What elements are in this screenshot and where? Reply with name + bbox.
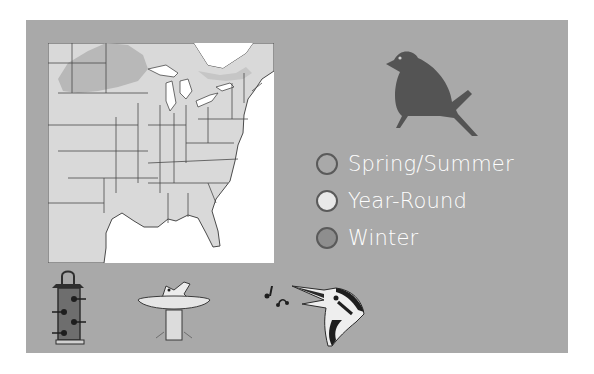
us-map-icon	[48, 43, 274, 263]
legend-label: Year-Round	[348, 189, 467, 213]
year-round-swatch-icon	[316, 190, 338, 212]
perched-bird-icon	[378, 36, 488, 136]
music-notes-icon	[265, 286, 290, 307]
spring-summer-swatch-icon	[316, 153, 338, 175]
legend-item-year-round: Year-Round	[316, 182, 514, 219]
legend-item-spring-summer: Spring/Summer	[316, 145, 514, 182]
bird-range-card: Spring/Summer Year-Round Winter	[26, 20, 568, 353]
birdbath-icon	[136, 278, 216, 348]
singing-bird-icon	[262, 280, 372, 354]
legend-label: Spring/Summer	[348, 152, 514, 176]
winter-swatch-icon	[316, 227, 338, 249]
legend-label: Winter	[348, 226, 418, 250]
tube-feeder-icon	[46, 270, 90, 354]
season-legend: Spring/Summer Year-Round Winter	[316, 145, 514, 256]
range-map	[48, 43, 274, 263]
legend-item-winter: Winter	[316, 219, 514, 256]
